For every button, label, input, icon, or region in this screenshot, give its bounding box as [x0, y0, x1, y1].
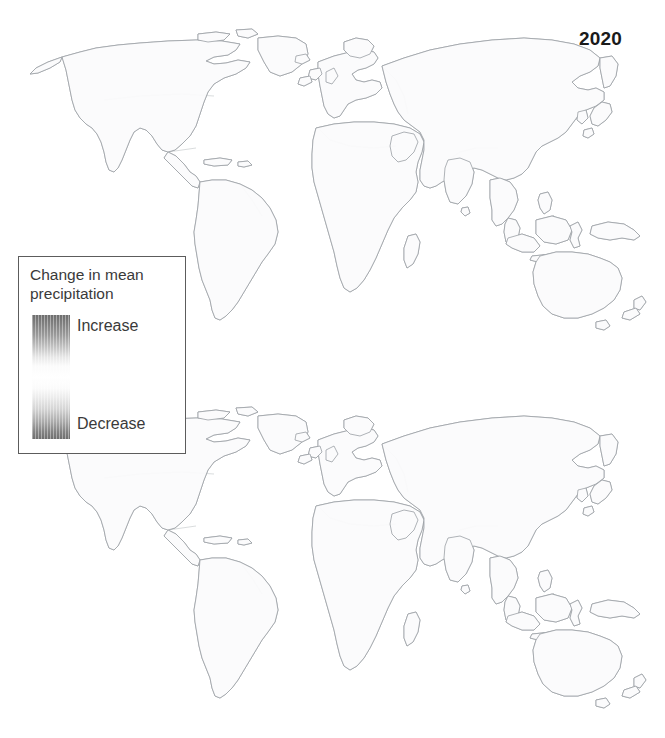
legend-title: Change in meanprecipitation [30, 265, 180, 303]
precipitation-change-figure: 2020 [0, 0, 665, 738]
legend-title-line-2: precipitation [30, 285, 114, 302]
legend-box: Change in meanprecipitation Increase Dec… [18, 256, 186, 454]
legend-title-line-1: Change in mean [30, 266, 144, 283]
year-label-2020: 2020 [579, 28, 622, 50]
legend-label-decrease: Decrease [77, 415, 145, 433]
legend-label-increase: Increase [77, 317, 138, 335]
legend-color-ramp [32, 315, 70, 439]
